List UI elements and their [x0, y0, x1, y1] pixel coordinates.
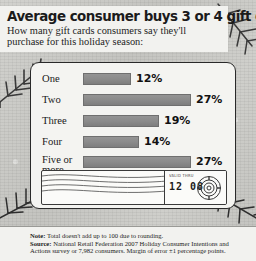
infographic-page: Average consumer buys 3 or 4 gift cards …: [0, 0, 256, 261]
bar-track: 14%: [83, 135, 231, 148]
bar-track: 27%: [83, 93, 231, 106]
bar-fill: [83, 115, 159, 127]
bar-row: Three 19%: [42, 111, 231, 130]
bar-track: 27%: [83, 153, 231, 168]
footnote-block: Note: Total doesn't add up to 100 due to…: [0, 226, 256, 261]
bar-fill: [83, 136, 139, 148]
page-subtitle: How many gift cards consumers say they'l…: [7, 25, 222, 48]
bar-category-label: Four: [42, 136, 83, 147]
gift-card-valid-thru-label: VALID THRU: [169, 174, 194, 179]
bar-track: 12%: [83, 72, 231, 85]
footnote-note: Note: Total doesn't add up to 100 due to…: [30, 232, 248, 240]
footnote-note-text: Total doesn't add up to 100 due to round…: [45, 232, 163, 239]
bar-category-label: Two: [42, 94, 83, 105]
bar-value-label: 14%: [144, 135, 170, 148]
chart-panel: One 12% Two 27% Three 19%: [30, 62, 236, 209]
bar-category-label: One: [42, 73, 83, 84]
bar-row: One 12%: [42, 69, 231, 88]
bar-value-label: 19%: [164, 114, 190, 127]
bar-value-label: 27%: [196, 93, 222, 106]
gift-card-graphic: VALID THRU 12 08: [41, 170, 227, 205]
bar-fill: [83, 156, 191, 168]
page-title: Average consumer buys 3 or 4 gift cards: [7, 9, 222, 24]
bar-list: One 12% Two 27% Three 19%: [42, 69, 231, 179]
bar-row: Two 27%: [42, 90, 231, 109]
bar-fill: [83, 73, 131, 85]
bar-fill: [83, 94, 191, 106]
footnote-source-text: National Retail Federation 2007 Holiday …: [30, 240, 229, 255]
gift-card-hologram-icon: [196, 175, 222, 201]
footnote-note-label: Note:: [30, 232, 45, 239]
footnote-source-label: Source:: [30, 240, 52, 247]
bar-value-label: 12%: [136, 72, 162, 85]
footnote-source: Source: National Retail Federation 2007 …: [30, 240, 248, 255]
bar-value-label: 27%: [196, 155, 222, 168]
bar-track: 19%: [83, 114, 231, 127]
header-block: Average consumer buys 3 or 4 gift cards …: [0, 6, 228, 52]
bar-row: Four 14%: [42, 132, 231, 151]
bar-category-label: Three: [42, 115, 83, 126]
gift-card-right-section: VALID THRU 12 08: [164, 171, 226, 205]
